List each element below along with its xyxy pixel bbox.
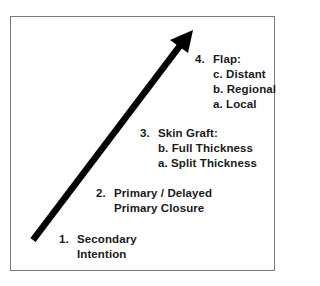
step-4-flap: 4.Flap: c. Distant b. Regional a. Local: [195, 52, 276, 112]
step-title: Primary / Delayed: [114, 186, 212, 201]
step-subitem: a. Local: [213, 97, 257, 112]
step-subitem: b. Full Thickness: [158, 141, 253, 156]
step-3-skin-graft: 3.Skin Graft: b. Full Thickness a. Split…: [140, 126, 257, 171]
step-subitem: a. Split Thickness: [158, 156, 257, 171]
step-number: 2.: [96, 186, 114, 201]
step-title: Secondary: [77, 232, 137, 247]
step-subitem: b. Regional: [213, 82, 276, 97]
step-number: 4.: [195, 52, 213, 67]
step-title: Skin Graft:: [158, 126, 218, 141]
step-number: 3.: [140, 126, 158, 141]
step-title: Flap:: [213, 52, 241, 67]
step-subitem: Intention: [77, 247, 126, 262]
step-number: 1.: [59, 232, 77, 247]
step-1-secondary-intention: 1.Secondary Intention: [59, 232, 137, 262]
step-subitem: Primary Closure: [114, 201, 204, 216]
step-2-primary-closure: 2.Primary / Delayed Primary Closure: [96, 186, 212, 216]
step-subitem: c. Distant: [213, 67, 266, 82]
